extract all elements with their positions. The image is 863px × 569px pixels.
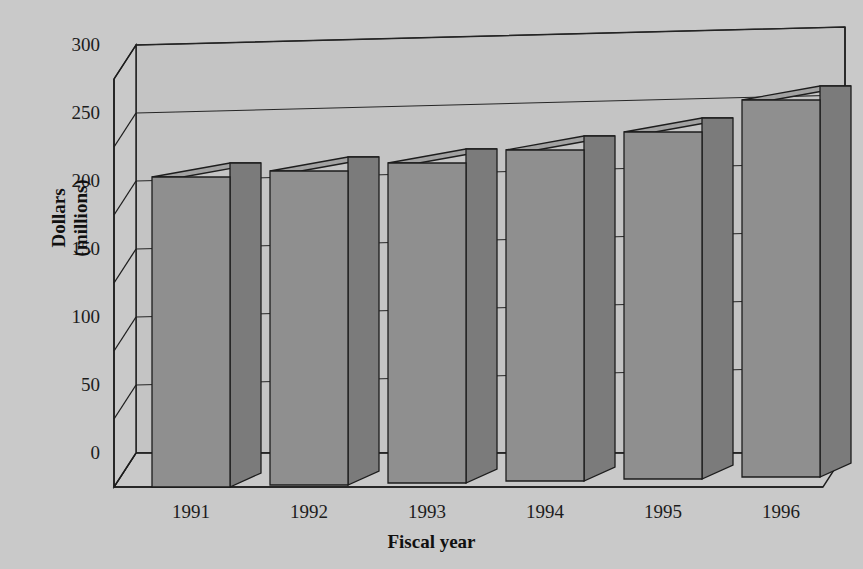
bar-1992[interactable] — [270, 157, 379, 485]
chart-canvas — [0, 0, 863, 569]
xtick-label-1996: 1996 — [736, 502, 826, 521]
bar-side-face — [820, 86, 851, 477]
xtick-label-1992: 1992 — [264, 502, 354, 521]
x-axis-title: Fiscal year — [0, 531, 863, 553]
ytick-label-50: 50 — [28, 375, 100, 394]
bar-side-face — [466, 149, 497, 483]
bar-1994[interactable] — [506, 136, 615, 481]
bar-1993[interactable] — [388, 149, 497, 483]
bar-front-face — [624, 132, 702, 479]
bar-front-face — [388, 163, 466, 483]
bar-side-face — [348, 157, 379, 485]
ytick-label-100: 100 — [28, 307, 100, 326]
bar-1995[interactable] — [624, 118, 733, 479]
xtick-label-1994: 1994 — [500, 502, 590, 521]
bar-side-face — [584, 136, 615, 481]
bar-front-face — [506, 150, 584, 481]
bar-side-face — [230, 163, 261, 487]
y-axis-title: Dollars (millions) — [48, 158, 92, 278]
bar-chart-3d: 300 250 200 150 100 50 0 1991 1992 1993 … — [0, 0, 863, 569]
ytick-label-0: 0 — [28, 443, 100, 462]
bar-1991[interactable] — [152, 163, 261, 487]
xtick-label-1993: 1993 — [382, 502, 472, 521]
xtick-label-1995: 1995 — [618, 502, 708, 521]
bar-side-face — [702, 118, 733, 479]
chart-page: 300 250 200 150 100 50 0 1991 1992 1993 … — [0, 0, 863, 569]
ytick-label-300: 300 — [28, 35, 100, 54]
ytick-label-250: 250 — [28, 103, 100, 122]
bar-front-face — [742, 100, 820, 477]
bar-1996[interactable] — [742, 86, 851, 477]
bar-front-face — [270, 171, 348, 485]
bar-front-face — [152, 177, 230, 487]
xtick-label-1991: 1991 — [146, 502, 236, 521]
